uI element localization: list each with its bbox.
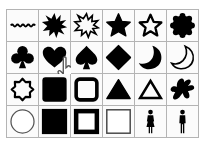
circle-frame-icon [9,108,36,135]
square-thick-frame-icon [73,108,100,135]
shape-starburst[interactable] [39,10,71,42]
shape-spade[interactable] [71,42,103,74]
female-figure-icon [137,108,164,135]
shape-circle-frame[interactable] [7,106,39,138]
shape-triangle-frame[interactable] [135,74,167,106]
blob-icon [169,76,196,103]
spade-icon [73,44,100,71]
shape-square-thick-frame[interactable] [71,106,103,138]
seal-8-point-frame-icon [9,76,36,103]
shape-square-thin-frame[interactable] [103,106,135,138]
shape-seal-8-point-frame[interactable] [7,74,39,106]
shape-rounded-square-frame[interactable] [71,74,103,106]
shape-blob[interactable] [167,74,199,106]
club-icon [9,44,36,71]
diamond-icon [105,44,132,71]
crescent-moon-frame-icon [169,44,196,71]
starburst-icon [41,12,68,39]
shape-heart[interactable] [39,42,71,74]
shape-seal[interactable] [167,10,199,42]
triangle-frame-icon [137,76,164,103]
shape-square[interactable] [39,106,71,138]
rounded-square-icon [41,76,68,103]
seal-icon [169,12,196,39]
square-icon [41,108,68,135]
star-icon [105,12,132,39]
square-thin-frame-icon [105,108,132,135]
shape-star[interactable] [103,10,135,42]
shape-rounded-square[interactable] [39,74,71,106]
crescent-moon-icon [137,44,164,71]
shape-triangle[interactable] [103,74,135,106]
shape-diamond[interactable] [103,42,135,74]
shape-wavy-line[interactable] [7,10,39,42]
shape-club[interactable] [7,42,39,74]
shape-male-figure[interactable] [167,106,199,138]
shape-crescent-moon[interactable] [135,42,167,74]
star-frame-icon [137,12,164,39]
triangle-icon [105,76,132,103]
rounded-square-frame-icon [73,76,100,103]
starburst-frame-icon [73,12,100,39]
wavy-line-icon [9,12,36,39]
male-figure-icon [169,108,196,135]
custom-shape-picker-grid [6,9,199,138]
shape-crescent-moon-frame[interactable] [167,42,199,74]
shape-starburst-frame[interactable] [71,10,103,42]
shape-star-frame[interactable] [135,10,167,42]
shape-female-figure[interactable] [135,106,167,138]
